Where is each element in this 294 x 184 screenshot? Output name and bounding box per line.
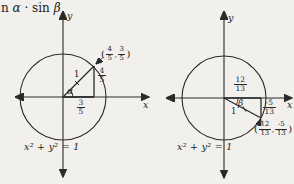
left-point-y-denominator: 5 bbox=[118, 54, 125, 63]
right-point-y-fraction: -5 13 bbox=[275, 121, 287, 137]
right-point-comma: , bbox=[272, 126, 275, 137]
left-point-x-fraction: 4 5 bbox=[106, 46, 113, 62]
right-x-axis-label: x bbox=[287, 100, 292, 110]
left-point-y-numerator: 3 bbox=[118, 46, 125, 54]
left-horizontal-leg-numerator: 3 bbox=[77, 99, 85, 107]
left-x-axis-label: x bbox=[143, 100, 148, 110]
left-point-comma: , bbox=[114, 51, 117, 62]
left-vertical-leg-label: 4 5 bbox=[98, 67, 106, 85]
right-point-x-denominator: 13 bbox=[259, 129, 271, 138]
right-point-x-fraction: 12 13 bbox=[259, 121, 271, 137]
left-point-y-fraction: 3 5 bbox=[118, 46, 125, 62]
right-circle-equation: x² + y² = 1 bbox=[177, 142, 233, 152]
textbook-figure-canvas: n α · sin β y x 1 α 4 5 3 5 ( 4 5 , 3 5 … bbox=[0, 0, 294, 184]
right-angle-label: β bbox=[238, 99, 243, 108]
diagram-linework bbox=[0, 0, 294, 184]
right-point-y-numerator: -5 bbox=[276, 121, 286, 129]
left-point-open-paren: ( bbox=[101, 49, 105, 59]
top-caption: n α · sin β bbox=[1, 2, 61, 14]
right-horizontal-leg-numerator: 12 bbox=[234, 76, 247, 84]
left-y-axis-label: y bbox=[67, 11, 72, 21]
right-radius-label: 1 bbox=[231, 107, 236, 116]
left-vertical-leg-numerator: 4 bbox=[98, 67, 106, 75]
right-horizontal-leg-denominator: 13 bbox=[234, 84, 247, 93]
left-point-coordinates: ( 4 5 , 3 5 ) bbox=[101, 46, 130, 62]
left-point-x-denominator: 5 bbox=[106, 54, 113, 63]
right-vertical-leg-label: -5 13 bbox=[263, 99, 276, 117]
right-point-close-paren: ) bbox=[288, 124, 292, 134]
left-point-x-numerator: 4 bbox=[106, 46, 113, 54]
right-point-open-paren: ( bbox=[254, 124, 258, 134]
right-y-axis-label: y bbox=[228, 13, 233, 23]
left-horizontal-leg-label: 3 5 bbox=[77, 99, 85, 117]
right-figure-lines bbox=[167, 12, 291, 177]
top-caption-text: n bbox=[1, 1, 13, 15]
top-caption-operator: · sin bbox=[21, 1, 54, 15]
right-point-coordinates: ( 12 13 , -5 13 ) bbox=[254, 121, 292, 137]
right-point-x-numerator: 12 bbox=[259, 121, 271, 129]
right-vertical-leg-denominator: 13 bbox=[263, 107, 276, 116]
right-horizontal-leg-label: 12 13 bbox=[234, 76, 247, 94]
right-vertical-leg-numerator: -5 bbox=[264, 99, 274, 107]
left-point-close-paren: ) bbox=[126, 49, 130, 59]
left-angle-label: α bbox=[67, 87, 73, 96]
left-horizontal-leg-denominator: 5 bbox=[77, 107, 85, 116]
left-radius-label: 1 bbox=[74, 70, 79, 79]
right-point-y-denominator: 13 bbox=[275, 129, 287, 138]
left-vertical-leg-denominator: 5 bbox=[98, 75, 106, 84]
left-circle-equation: x² + y² = 1 bbox=[24, 142, 80, 152]
alpha-symbol: α bbox=[13, 1, 21, 15]
beta-symbol: β bbox=[54, 1, 61, 15]
